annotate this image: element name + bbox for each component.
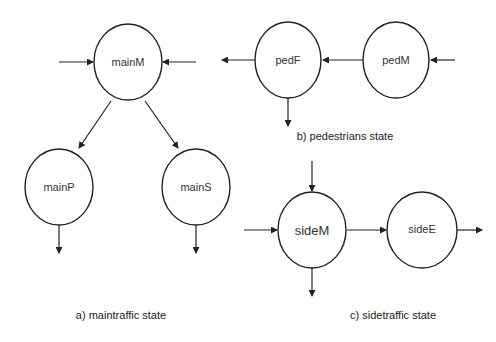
panel-sidetraffic: sideM sideE c) sidetraffic state bbox=[244, 161, 482, 321]
caption-sidetraffic: c) sidetraffic state bbox=[350, 309, 436, 321]
diagram-svg: mainM mainP mainS a) maintraffic state p… bbox=[0, 0, 496, 342]
panel-maintraffic: mainM mainP mainS a) maintraffic state bbox=[25, 24, 230, 321]
state-label-mainM: mainM bbox=[111, 56, 144, 68]
state-label-mainS: mainS bbox=[180, 181, 211, 193]
state-label-mainP: mainP bbox=[43, 181, 74, 193]
state-diagram: mainM mainP mainS a) maintraffic state p… bbox=[0, 0, 496, 342]
panel-pedestrians: pedF pedM b) pedestrians state bbox=[222, 22, 455, 142]
caption-maintraffic: a) maintraffic state bbox=[76, 309, 166, 321]
state-label-pedF: pedF bbox=[275, 54, 300, 66]
state-label-sideE: sideE bbox=[408, 223, 436, 235]
caption-pedestrians: b) pedestrians state bbox=[297, 130, 394, 142]
state-label-sideM: sideM bbox=[295, 223, 330, 238]
state-label-pedM: pedM bbox=[382, 54, 410, 66]
arrow-mainM-mainS bbox=[145, 101, 178, 148]
arrow-mainM-mainP bbox=[79, 101, 111, 148]
